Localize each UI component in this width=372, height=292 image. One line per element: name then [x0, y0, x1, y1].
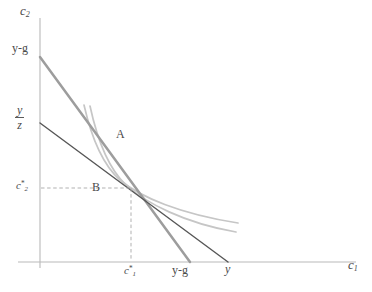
c2-star-label: c*2 — [16, 180, 28, 193]
point-a-label: A — [116, 128, 125, 140]
x-intercept-y-minus-g-label: y-g — [172, 264, 188, 276]
figure-canvas: c2 c1 y-g y z c*2 c*1 A B y-g y — [0, 0, 372, 292]
c1-axis-label: c1 — [348, 258, 358, 273]
x-intercept-y-label: y — [225, 263, 230, 275]
y-minus-g-intercept-label: y-g — [12, 42, 28, 54]
fraction-denominator: z — [15, 119, 24, 131]
diagram-svg — [0, 0, 372, 292]
fraction-numerator: y — [15, 104, 24, 116]
budget-line-y-over-z — [40, 123, 228, 262]
c2-axis-label: c2 — [20, 4, 30, 19]
point-b-label: B — [92, 181, 100, 193]
y-over-z-intercept-label: y z — [15, 104, 24, 131]
indifference-curve-upper — [84, 105, 238, 223]
budget-line-y-minus-g — [40, 57, 190, 262]
c1-star-label: c*1 — [124, 265, 136, 278]
